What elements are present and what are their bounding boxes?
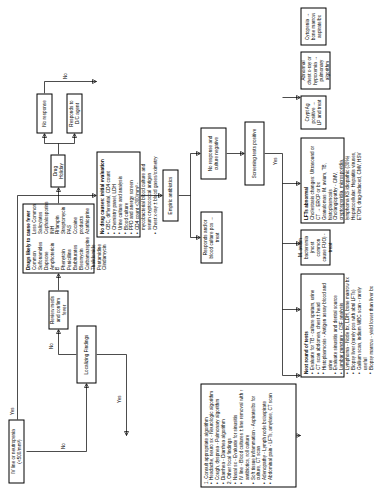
lft-item: Hepatocellular: Hepatitis viruses, ETOH,… [350,141,362,220]
localizing-step2-item: IV line - Blood cultures ± line removal … [238,387,250,484]
next-tests-title: Next round of tests [303,277,309,374]
lft-item: Cholestasis changes: Ultrasound or CT → … [309,141,321,220]
node-empiric-antibiotics: Empiric antibiotics [162,169,178,221]
drug-item: INH [49,202,55,234]
initial-eval-item: PPD and anergy screen [128,155,134,234]
node-localizing-findings: Localizing Findings [76,325,96,383]
next-test-item: Lumbar puncture - CSF analysis [338,277,344,374]
drug-item: Cocaine products [72,202,84,234]
edge-label-yes-top: Yes [9,407,14,416]
lft-title: LFTs abnormal [303,141,309,220]
drugs-box: Drugs likely to cause fever Common Sulfo… [22,203,94,273]
abnormal-cxr-box: Abnormal chest x-ray or hypoxemia → pulm… [300,51,330,89]
drug-item: Penicillins [66,240,72,270]
next-tests-list: Evaluate for TB - culture sputum, urine … [309,277,374,374]
initial-eval-item: CD4 count <300/mm³ - mycobacterial blood… [134,155,152,234]
localizing-yes-box: 1. Consult appropriate algorithm Headach… [200,383,296,487]
drug-item: PAS [66,202,72,234]
drug-item: Amphotericin B [49,240,61,270]
drug-item: Dapsone [43,240,49,270]
node-review-meds: Review meds and confirm fever [48,290,68,329]
initial-evaluation-box: No drug causes: initial evaluation CBC, … [96,151,140,237]
drugs-title: Drugs likely to cause fever [25,207,31,270]
cytopenia-box: Cytopenia → bone marrow aspirate/bx [300,7,326,45]
drugs-col1-list: Sulfonamides Dapsone Amphotericin B Phen… [37,240,108,270]
drugs-col2-header: Less Common [31,202,37,234]
drug-item: Azathioprine [84,202,90,234]
node-drug-holiday: Drug Holiday [50,154,65,187]
localizing-step1: 1. Consult appropriate algorithm [203,387,209,484]
next-round-tests-box: Next round of tests Evaluate for TB - cu… [300,273,344,377]
drug-item: Sulfonamides [37,240,43,270]
localizing-step2-item: Nasal sx - Evaluate for sinusitis [232,387,238,484]
edge-label-no-localizing: No [48,342,53,349]
drug-item: Streptomycin [60,202,66,234]
next-test-item: Biopsy liver (rarely pos with abnl LFTs) [350,277,356,374]
node-responds-blood-culture-pos: Responds and/or blood culture pos → trea… [200,211,222,263]
drug-item: Rifampin [54,202,60,234]
drug-item: Phenytoin [60,240,66,270]
drug-item: Barbiturates [72,240,78,270]
drugs-col1-header: Common [31,240,37,270]
next-test-item: CT scan abdomen, chest ± head [315,277,321,374]
node-no-response: No response [36,93,52,133]
initial-eval-item: CBC, differential, CD4 count [105,155,111,234]
initial-eval-item: Chemistry panel, LDH [111,155,117,234]
node-responds-dc-agent: Responds to D/C agent [66,93,82,133]
next-test-item: Evaluate for TB - culture sputum, urine [309,277,315,374]
localizing-step1-item: Diarrhea - Diarrhea algorithm [220,387,226,484]
lft-item: Granulomas: M. avium, TB, histoplasmosis [321,141,333,220]
localizing-step2-item: Abdominal pain - LFTs, amylase, CT scan [267,387,273,484]
edge-label-no-iv: No [60,442,65,449]
next-test-item: Lymphoma - Node bx, LDH, bone marrow bx [344,277,350,374]
localizing-step1-item: Headache, neuro sx - Neurologic algorith… [208,387,214,484]
next-test-item: Gallium scan, indium WBC scan - rarely u… [356,277,368,374]
localizing-step2-item: Adenopathy - Lymph node bx/aspirate [261,387,267,484]
initial-eval-item: Blood culture [123,155,129,234]
edge-label-yes-localizing: Yes [116,395,121,404]
serum-mai-box: M. avium bacteremia (most common cause F… [300,229,330,265]
initial-eval-item: Chest x-ray ± blood gases/oximetry [152,155,158,234]
localizing-step2: 2. Other focal findings [226,387,232,484]
node-screening-tests-positive: Screening tests positive [244,121,264,185]
drug-item: Carbamazepine [84,240,90,270]
next-test-item: Biopsy marrow - yield lower than liver b… [368,277,374,374]
edge-label-yes-screen: Yes [272,157,277,166]
localizing-step2-item: Soft tissue inflammation - Aspirate/bx f… [250,387,262,484]
initial-eval-title: No drug causes: initial evaluation [99,155,105,234]
drugs-column-common: Common Sulfonamides Dapsone Amphotericin… [31,240,107,270]
drug-item: Cephalosporins [43,202,49,234]
drug-item: Salicylates [37,202,43,234]
next-test-item: Evaluate sinusitis and dental source [332,277,338,374]
drug-item: Clindamycin [101,240,107,270]
node-no-response-culture-negative: No response and culture negative [200,127,226,179]
drug-item: Thalidomide [90,240,96,270]
initial-eval-item: Urine culture and analysis [117,155,123,234]
lft-item: Cholangiopathy - CMV, cryptosporidia, mi… [332,141,350,220]
node-iv-line: IV line or neutropenia (<500/mm³) [8,419,24,483]
lft-abnormal-box: LFTs abnormal Cholestasis changes: Ultra… [300,137,344,223]
crypt-ag-box: Crypt Ag positive → LP and treat [300,95,326,129]
localizing-step1-item: Cough, dyspnea - Pulmonary algorithm [214,387,220,484]
edge-label-no-drugs: No [62,72,67,79]
drug-item: Pentamidine [96,240,102,270]
drug-item: Bleomycin [78,240,84,270]
next-test-item: Histoplasmosis - Antigen assay blood and… [321,277,333,374]
initial-eval-list: CBC, differential, CD4 count Chemistry p… [105,155,158,234]
lft-list: Cholestasis changes: Ultrasound or CT → … [309,141,362,220]
drugs-col2-list: Salicylates Cephalosporins INH Rifampin … [37,202,90,234]
